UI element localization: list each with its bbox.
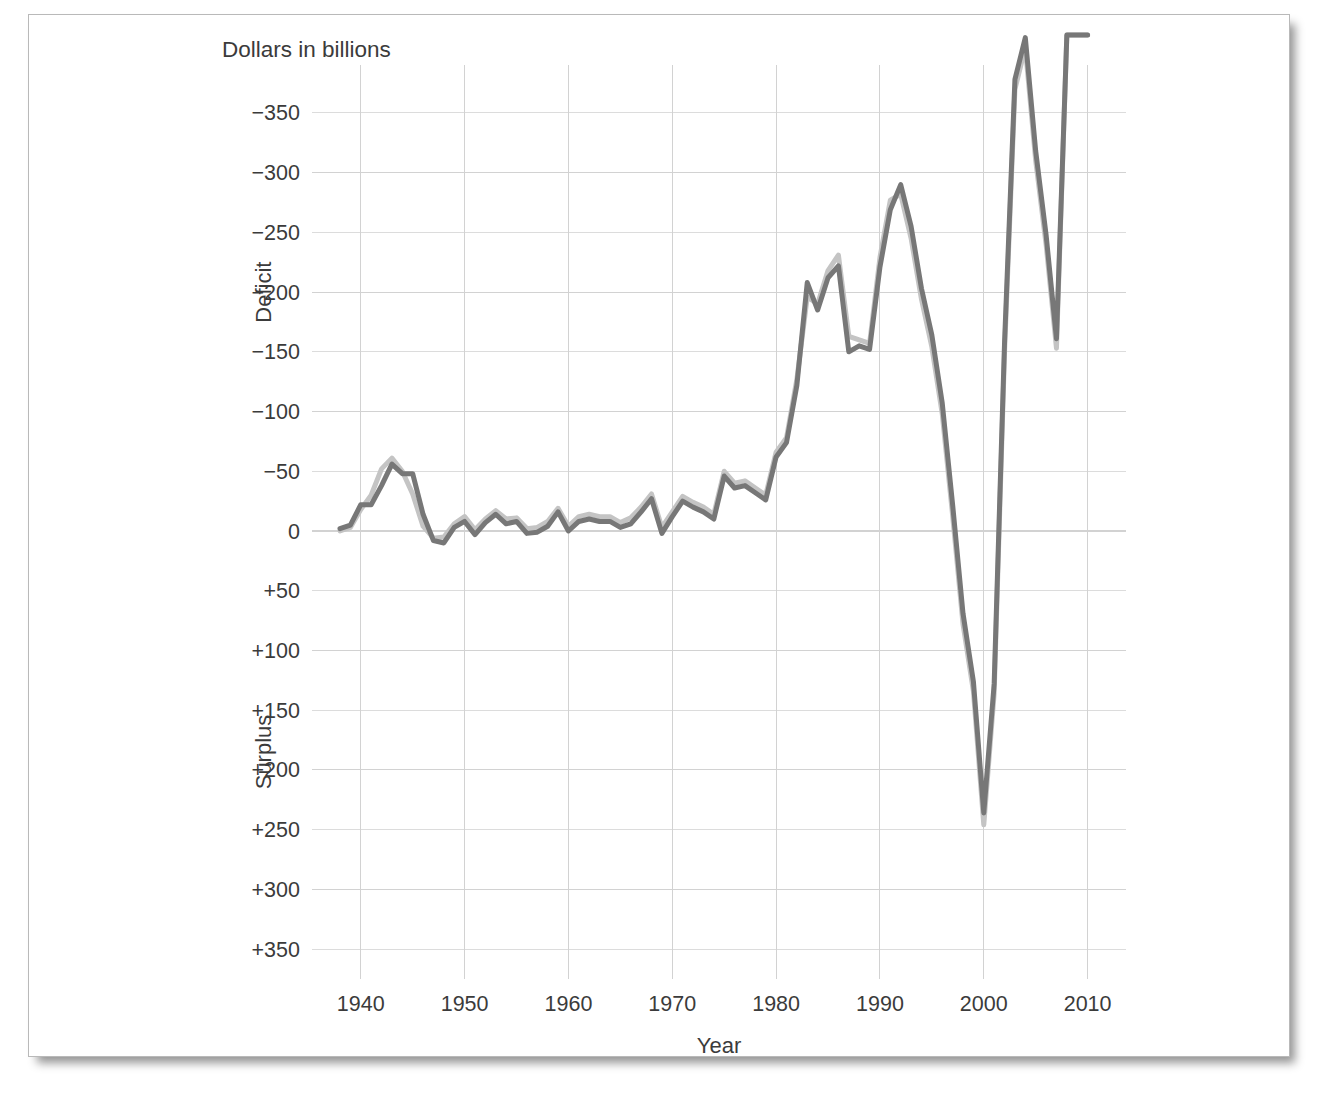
chart-card: −350−300−250−200−150−100−500+50+100+150+… bbox=[28, 14, 1290, 1057]
unit-note-label: Dollars in billions bbox=[222, 37, 391, 62]
data-series bbox=[340, 35, 1088, 825]
x-axis: 19401950196019701980199020002010 bbox=[337, 992, 1112, 1016]
deficit-surplus-line-chart: −350−300−250−200−150−100−500+50+100+150+… bbox=[29, 15, 1291, 1058]
y-tick-label: −100 bbox=[252, 400, 300, 424]
x-tick-label: 1950 bbox=[441, 992, 489, 1016]
chart-figure: −350−300−250−200−150−100−500+50+100+150+… bbox=[29, 15, 1291, 1058]
y-tick-label: +100 bbox=[252, 639, 300, 663]
deficit-axis-label: Deficit bbox=[251, 262, 276, 323]
y-tick-label: −250 bbox=[252, 221, 300, 245]
y-axis: −350−300−250−200−150−100−500+50+100+150+… bbox=[252, 101, 300, 961]
y-tick-label: +250 bbox=[252, 818, 300, 842]
y-tick-label: +350 bbox=[252, 938, 300, 962]
x-axis-title: Year bbox=[697, 1033, 741, 1058]
y-tick-label: −350 bbox=[252, 101, 300, 125]
x-tick-label: 2010 bbox=[1064, 992, 1112, 1016]
series-line-dark-series bbox=[340, 35, 1088, 813]
gridlines bbox=[312, 65, 1126, 979]
x-tick-label: 1990 bbox=[856, 992, 904, 1016]
y-tick-label: −150 bbox=[252, 340, 300, 364]
y-tick-label: 0 bbox=[288, 520, 300, 544]
x-tick-label: 1960 bbox=[545, 992, 593, 1016]
y-tick-label: −300 bbox=[252, 161, 300, 185]
x-tick-label: 1940 bbox=[337, 992, 385, 1016]
x-tick-label: 1980 bbox=[752, 992, 800, 1016]
y-tick-label: +50 bbox=[264, 579, 301, 603]
x-tick-label: 1970 bbox=[648, 992, 696, 1016]
y-tick-label: −50 bbox=[264, 460, 301, 484]
y-tick-label: +300 bbox=[252, 878, 300, 902]
surplus-axis-label: Surplus bbox=[251, 715, 276, 790]
x-tick-label: 2000 bbox=[960, 992, 1008, 1016]
